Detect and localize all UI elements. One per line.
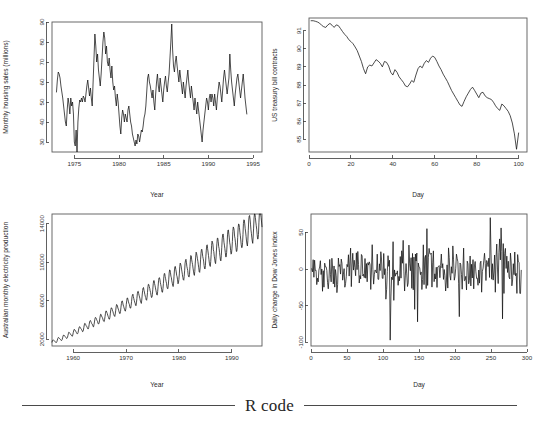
x-tick-label: 1995 — [246, 160, 260, 167]
plot-frame — [309, 18, 527, 152]
y-tick-label: -100 — [297, 336, 304, 349]
y-tick-label: 89 — [295, 63, 302, 70]
y-tick-label: -50 — [297, 301, 304, 311]
plot-frame — [52, 214, 262, 346]
chart-panel-dow-jones-change: 050100150200250300-100-50050DayDaily cha… — [269, 196, 539, 390]
y-tick-label: 90 — [38, 18, 45, 25]
y-tick-label: 90 — [295, 45, 302, 52]
y-tick-label: 70 — [38, 58, 45, 65]
y-axis-title: US treasury bill contracts — [271, 48, 279, 122]
x-tick-label: 60 — [431, 160, 438, 167]
x-tick-label: 1980 — [112, 160, 126, 167]
figure-panel-grid: 1975198019851990199530405060708090YearMo… — [0, 0, 539, 390]
y-tick-label: 0 — [297, 267, 304, 271]
footer-rule-left — [22, 405, 235, 406]
x-tick-label: 1970 — [119, 354, 133, 361]
chart-panel-treasury-bill: 02040608010085868788899091DayUS treasury… — [269, 0, 539, 200]
y-tick-label: 6000 — [38, 293, 45, 307]
footer-caption: R code — [245, 396, 294, 416]
y-axis-title: Australian monthly electricity productio… — [2, 222, 10, 339]
x-tick-label: 100 — [513, 160, 524, 167]
y-axis-title: Daily change in Dow Jones index — [271, 231, 279, 329]
y-tick-label: 50 — [297, 228, 304, 235]
x-tick-label: 300 — [522, 354, 533, 361]
x-tick-label: 1990 — [225, 354, 239, 361]
x-tick-label: 1980 — [172, 354, 186, 361]
y-tick-label: 50 — [38, 98, 45, 105]
x-axis-title: Year — [150, 381, 164, 388]
chart-panel-electricity-production: 1960197019801990200060001000014000YearAu… — [0, 196, 270, 390]
y-tick-label: 40 — [38, 118, 45, 125]
y-tick-label: 30 — [38, 138, 45, 145]
x-tick-label: 100 — [378, 354, 389, 361]
x-tick-label: 40 — [389, 160, 396, 167]
y-axis-title: Monthly housing sales (millions) — [2, 40, 10, 133]
x-tick-label: 1990 — [202, 160, 216, 167]
x-tick-label: 1975 — [67, 160, 81, 167]
plot-frame — [52, 22, 262, 152]
y-tick-label: 86 — [295, 117, 302, 124]
x-tick-label: 20 — [347, 160, 354, 167]
x-tick-label: 150 — [414, 354, 425, 361]
y-tick-label: 2000 — [38, 332, 45, 346]
x-tick-label: 200 — [450, 354, 461, 361]
x-tick-label: 0 — [307, 160, 311, 167]
y-tick-label: 85 — [295, 135, 302, 142]
x-axis-title: Day — [413, 381, 425, 389]
x-tick-label: 1985 — [157, 160, 171, 167]
x-tick-label: 1960 — [66, 354, 80, 361]
y-tick-label: 87 — [295, 99, 302, 106]
x-tick-label: 50 — [344, 354, 351, 361]
figure-footer: R code — [0, 390, 539, 421]
x-tick-label: 250 — [486, 354, 497, 361]
y-tick-label: 91 — [295, 27, 302, 34]
x-tick-label: 80 — [473, 160, 480, 167]
footer-rule-right — [304, 405, 517, 406]
y-tick-label: 14000 — [38, 214, 45, 232]
y-tick-label: 60 — [38, 78, 45, 85]
y-tick-label: 10000 — [38, 253, 45, 271]
x-tick-label: 0 — [309, 354, 313, 361]
y-tick-label: 80 — [38, 38, 45, 45]
plot-frame — [311, 214, 527, 346]
y-tick-label: 88 — [295, 81, 302, 88]
chart-panel-housing-sales: 1975198019851990199530405060708090YearMo… — [0, 0, 270, 200]
